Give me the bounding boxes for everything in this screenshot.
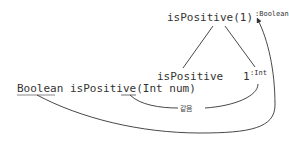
equality-label: 같음 bbox=[180, 104, 193, 113]
signature-return-type: Boolean bbox=[17, 82, 63, 95]
equality-edge-left bbox=[130, 95, 178, 108]
tree-edge-left bbox=[183, 26, 213, 68]
child-literal-type: :Int bbox=[250, 69, 267, 77]
child-literal: 1 bbox=[243, 70, 250, 83]
tree-edge-right bbox=[225, 26, 255, 67]
equality-edge-right bbox=[205, 84, 258, 108]
type-inference-diagram: isPositive(1) :Boolean isPositive 1 :Int… bbox=[0, 0, 289, 141]
root-expression: isPositive(1) bbox=[167, 11, 253, 24]
signature-param-type: Int bbox=[143, 82, 163, 95]
signature-name: isPositive( bbox=[63, 82, 142, 95]
function-signature: Boolean isPositive(Int num) bbox=[17, 82, 196, 95]
signature-param-rest: num) bbox=[163, 82, 196, 95]
diagram-canvas: isPositive(1) :Boolean isPositive 1 :Int… bbox=[0, 0, 289, 141]
return-type-arrow bbox=[37, 20, 275, 133]
root-type-annotation: :Boolean bbox=[255, 10, 289, 18]
